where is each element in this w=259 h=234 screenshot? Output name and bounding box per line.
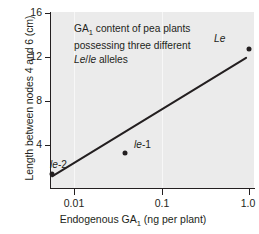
x-tick-label-1.0: 1.0 <box>226 197 259 209</box>
y-tick-label-8: 8 <box>16 94 42 106</box>
data-point-le-1[interactable] <box>123 150 128 155</box>
x-tick-0.01 <box>74 189 75 195</box>
x-axis-line <box>50 188 255 189</box>
data-point-label-le-2: le-2 <box>50 159 67 170</box>
y-tick-label-4: 4 <box>16 138 42 150</box>
x-tick-1.0 <box>249 189 250 195</box>
y-tick-label-12: 12 <box>16 50 42 62</box>
x-tick-label-0.01: 0.01 <box>52 197 96 209</box>
data-point-label-le-1: le-1 <box>134 139 151 150</box>
x-tick-0.1 <box>162 189 163 195</box>
data-point-le[interactable] <box>246 46 251 51</box>
chart-figure: Length between nodes 4 and 6 (cm) 16 12 … <box>0 0 259 234</box>
y-tick-label-16: 16 <box>16 6 42 18</box>
x-tick-label-0.1: 0.1 <box>140 197 184 209</box>
x-axis-title: Endogenous GA1 (ng per plant) <box>28 213 238 228</box>
data-point-label-le: Le <box>214 33 225 44</box>
data-point-le-2[interactable] <box>49 172 54 177</box>
